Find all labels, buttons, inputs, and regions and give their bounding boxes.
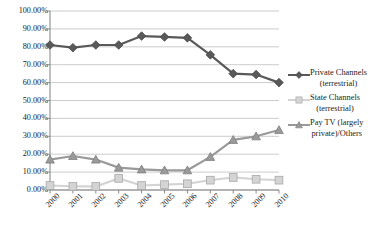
data-point: [160, 33, 169, 42]
legend-key-icon: [288, 119, 310, 130]
data-point: [161, 181, 169, 189]
y-axis-tick-label: 30.00%: [0, 132, 48, 140]
marker-square: [46, 182, 54, 190]
data-point: [46, 182, 54, 190]
y-axis-tick-label: 10.00%: [0, 168, 48, 176]
legend-marker: [296, 122, 303, 128]
marker-square: [275, 176, 283, 184]
legend-label-line2: private)/Others: [310, 129, 364, 140]
y-axis-tick-label: 60.00%: [0, 78, 48, 86]
marker-square: [252, 175, 260, 183]
legend-label-line1: Pay TV (largely: [310, 118, 364, 127]
chart-legend: Private Channels(terrestrial)State Chann…: [288, 68, 391, 143]
legend-label-line1: State Channels: [310, 93, 360, 102]
legend-marker: [296, 97, 302, 103]
legend-marker-diamond-icon: [295, 71, 303, 79]
marker-square: [69, 183, 77, 191]
data-point: [275, 126, 284, 134]
data-point: [229, 174, 237, 182]
data-point: [275, 176, 283, 184]
marker-diamond: [160, 33, 169, 42]
y-axis-tick-label: 40.00%: [0, 114, 48, 122]
y-axis-tick-label: 100.00%: [0, 7, 48, 15]
marker-square: [138, 182, 146, 190]
marker-square: [115, 174, 123, 182]
marker-diamond: [275, 78, 284, 87]
legend-marker-triangle-icon: [295, 121, 303, 129]
data-point: [69, 43, 78, 52]
marker-triangle: [296, 122, 303, 128]
y-axis-tick-label: 50.00%: [0, 96, 48, 104]
y-axis-tick-label: 0.00%: [0, 186, 48, 194]
data-point: [114, 41, 123, 50]
plot-area: [50, 11, 279, 190]
y-axis-tick-label: 20.00%: [0, 150, 48, 158]
marker-diamond: [69, 43, 78, 52]
legend-item[interactable]: Pay TV (largelyprivate)/Others: [288, 118, 391, 139]
data-point: [137, 32, 146, 41]
y-axis-tick-label: 90.00%: [0, 25, 48, 33]
legend-item[interactable]: Private Channels(terrestrial): [288, 68, 391, 89]
data-point: [275, 78, 284, 87]
data-point: [69, 183, 77, 191]
marker-triangle: [275, 126, 284, 134]
legend-marker: [296, 72, 303, 79]
marker-diamond: [92, 41, 101, 50]
marker-square: [206, 176, 214, 184]
marker-diamond: [296, 72, 303, 79]
legend-label: Pay TV (largelyprivate)/Others: [310, 118, 364, 139]
chart-screenshot: 0.00%10.00%20.00%30.00%40.00%50.00%60.00…: [0, 0, 391, 232]
marker-diamond: [252, 70, 261, 79]
legend-label-line2: (terrestrial): [310, 79, 367, 90]
legend-key-icon: [288, 94, 310, 105]
series-line-0: [50, 36, 279, 83]
data-point: [92, 183, 100, 191]
data-point: [115, 174, 123, 182]
y-axis-labels: 0.00%10.00%20.00%30.00%40.00%50.00%60.00…: [0, 0, 48, 232]
data-point: [252, 175, 260, 183]
marker-diamond: [137, 32, 146, 41]
legend-label-line2: (terrestrial): [310, 104, 360, 115]
x-axis-labels: 2000200120022003200420052006200720082009…: [50, 192, 279, 232]
y-axis-tick-label: 70.00%: [0, 61, 48, 69]
data-point: [138, 182, 146, 190]
marker-square: [161, 181, 169, 189]
legend-label-line1: Private Channels: [310, 68, 367, 77]
line-chart-svg: [50, 11, 279, 190]
legend-label: Private Channels(terrestrial): [310, 68, 367, 89]
marker-square: [184, 180, 192, 188]
legend-marker-square-icon: [295, 96, 303, 104]
y-axis-tick-label: 80.00%: [0, 43, 48, 51]
legend-key-icon: [288, 69, 310, 80]
marker-diamond: [114, 41, 123, 50]
marker-square: [229, 174, 237, 182]
legend-item[interactable]: State Channels(terrestrial): [288, 93, 391, 114]
data-point: [92, 41, 101, 50]
data-point: [184, 180, 192, 188]
marker-square: [92, 183, 100, 191]
legend-label: State Channels(terrestrial): [310, 93, 360, 114]
data-point: [206, 176, 214, 184]
data-point: [252, 70, 261, 79]
marker-square: [296, 97, 302, 103]
